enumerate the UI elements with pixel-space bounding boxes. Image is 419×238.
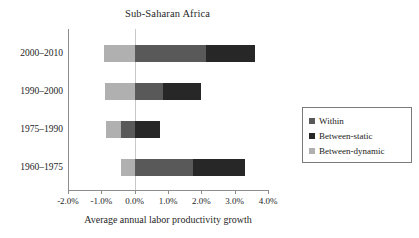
bar-group xyxy=(68,83,268,100)
x-axis-title: Average annual labor productivity growth xyxy=(40,214,296,225)
y-axis-category-label: 2000–2010 xyxy=(3,48,63,58)
x-tick-mark xyxy=(168,190,169,194)
x-tick-mark xyxy=(235,190,236,194)
x-tick-mark xyxy=(268,190,269,194)
bar-group xyxy=(68,159,268,176)
x-tick-mark xyxy=(201,190,202,194)
bar-segment xyxy=(163,83,201,100)
chart-figure: Sub-Saharan Africa -2.0%-1.0%0.0%1.0%2.0… xyxy=(0,0,419,238)
x-tick-mark xyxy=(135,190,136,194)
bar-segment xyxy=(105,83,135,100)
bar-group xyxy=(68,121,268,138)
bar-segment xyxy=(106,121,121,138)
plot-area: -2.0%-1.0%0.0%1.0%2.0%3.0%4.0% xyxy=(68,29,268,190)
bar-segment xyxy=(121,159,134,176)
bar-segment xyxy=(206,45,254,62)
legend-swatch-icon xyxy=(309,133,315,139)
legend-item: Between-dynamic xyxy=(309,143,411,158)
x-tick-mark xyxy=(101,190,102,194)
bar-segment xyxy=(135,83,163,100)
bar-segment xyxy=(135,45,207,62)
bar-segment xyxy=(135,121,160,138)
legend-item: Within xyxy=(309,113,411,128)
y-axis-category-label: 1975–1990 xyxy=(3,124,63,134)
legend-label: Within xyxy=(319,116,344,126)
chart-title: Sub-Saharan Africa xyxy=(60,8,275,19)
bar-segment xyxy=(135,159,193,176)
bar-group xyxy=(68,45,268,62)
legend-swatch-icon xyxy=(309,148,315,154)
bar-segment xyxy=(121,121,134,138)
x-tick-mark xyxy=(68,190,69,194)
y-axis-category-label: 1990–2000 xyxy=(3,86,63,96)
bar-segment xyxy=(193,159,245,176)
chart-legend: WithinBetween-staticBetween-dynamic xyxy=(302,107,412,163)
bar-segment xyxy=(104,45,135,62)
y-axis-category-label: 1960–1975 xyxy=(3,162,63,172)
legend-label: Between-static xyxy=(319,131,372,141)
legend-label: Between-dynamic xyxy=(319,146,384,156)
legend-item: Between-static xyxy=(309,128,411,143)
legend-swatch-icon xyxy=(309,118,315,124)
x-tick-label: 4.0% xyxy=(248,196,288,206)
